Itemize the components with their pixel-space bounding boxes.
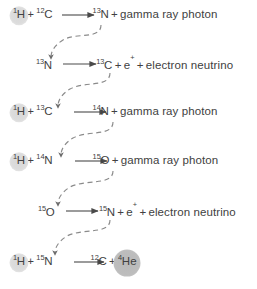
mass-number: 15	[99, 204, 107, 213]
connector-arrow-5	[55, 220, 110, 253]
product-label-neutrino: electron neutrino	[146, 59, 233, 71]
connector-arrow-3	[61, 122, 113, 155]
nuclide-nitrogen-15: 15N	[99, 207, 115, 219]
element-symbol: N	[107, 206, 115, 218]
element-symbol: C	[44, 8, 52, 20]
nuclide-oxygen-15: 15O	[38, 207, 55, 219]
mass-number: 13	[36, 57, 44, 66]
mass-number: 13	[96, 57, 104, 66]
plus-sign: +	[135, 59, 146, 71]
element-symbol: H	[17, 8, 25, 20]
element-symbol: N	[44, 255, 52, 267]
reaction-row-6: 1H+15N12C+4He	[13, 256, 137, 268]
mass-number: 14	[36, 152, 44, 161]
nuclide-oxygen-15: 15O	[93, 155, 110, 167]
reaction-row-4: 1H+14N15O+gamma ray photon	[13, 155, 218, 167]
product-label-gamma: gamma ray photon	[121, 154, 219, 166]
positron-symbol: e	[126, 206, 133, 218]
plus-sign: +	[115, 206, 126, 218]
connector-arrows-layer	[0, 0, 257, 289]
connector-arrow-4	[58, 171, 113, 204]
product-label-positron: e+	[124, 59, 135, 71]
plus-sign: +	[137, 206, 148, 218]
mass-number: 4	[118, 253, 122, 262]
mass-number: 12	[91, 253, 99, 262]
mass-number: 1	[13, 152, 17, 161]
nuclide-carbon-13: 13C	[36, 106, 52, 118]
element-symbol: N	[100, 105, 108, 117]
element-symbol: C	[44, 105, 52, 117]
element-symbol: N	[44, 59, 52, 71]
mass-number: 1	[13, 6, 17, 15]
element-symbol: H	[17, 154, 25, 166]
mass-number: 13	[93, 6, 101, 15]
product-label-gamma: gamma ray photon	[120, 105, 218, 117]
nuclide-nitrogen-14: 14N	[36, 155, 52, 167]
element-symbol: O	[46, 206, 55, 218]
mass-number: 15	[38, 204, 46, 213]
element-symbol: C	[98, 255, 106, 267]
element-symbol: C	[104, 59, 112, 71]
nuclide-nitrogen-13: 13N	[93, 9, 109, 21]
mass-number: 14	[93, 103, 101, 112]
product-label-positron: e+	[126, 206, 137, 218]
nuclide-nitrogen-15: 15N	[36, 256, 52, 268]
nuclide-carbon-12: 12C	[36, 9, 52, 21]
connector-arrow-1	[51, 25, 101, 57]
reaction-row-5: 15O15N+e++electron neutrino	[38, 205, 236, 218]
nuclide-hydrogen-1: 1H	[13, 106, 25, 118]
plus-sign: +	[109, 154, 120, 166]
product-label-gamma: gamma ray photon	[120, 8, 218, 20]
element-symbol: H	[17, 255, 25, 267]
nuclide-nitrogen-13: 13N	[36, 60, 52, 72]
connector-arrow-2	[58, 73, 110, 106]
mass-number: 15	[36, 253, 44, 262]
nuclide-hydrogen-1: 1H	[13, 9, 25, 21]
nuclide-carbon-12: 12C	[91, 256, 107, 268]
cno-cycle-diagram: 1H+12C13N+gamma ray photon 13N13C+e++ele…	[0, 0, 257, 289]
plus-sign: +	[113, 59, 124, 71]
reaction-row-3: 1H+13C14N+gamma ray photon	[13, 106, 218, 118]
element-symbol: He	[122, 255, 137, 267]
nuclide-hydrogen-1: 1H	[13, 155, 25, 167]
element-symbol: N	[100, 8, 108, 20]
element-symbol: H	[17, 105, 25, 117]
positron-charge: +	[130, 53, 134, 62]
mass-number: 12	[36, 6, 44, 15]
mass-number: 13	[36, 103, 44, 112]
nuclide-hydrogen-1: 1H	[13, 256, 25, 268]
plus-sign: +	[109, 105, 120, 117]
reaction-row-1: 1H+12C13N+gamma ray photon	[13, 9, 218, 21]
nuclide-helium-4: 4He	[118, 256, 137, 268]
plus-sign: +	[109, 8, 120, 20]
reaction-row-2: 13N13C+e++electron neutrino	[36, 58, 233, 71]
element-symbol: O	[100, 154, 109, 166]
nuclide-carbon-13: 13C	[96, 60, 112, 72]
mass-number: 1	[13, 253, 17, 262]
mass-number: 15	[93, 152, 101, 161]
mass-number: 1	[13, 103, 17, 112]
positron-charge: +	[133, 200, 137, 209]
element-symbol: N	[44, 154, 52, 166]
nuclide-nitrogen-14: 14N	[93, 106, 109, 118]
product-label-neutrino: electron neutrino	[148, 206, 235, 218]
